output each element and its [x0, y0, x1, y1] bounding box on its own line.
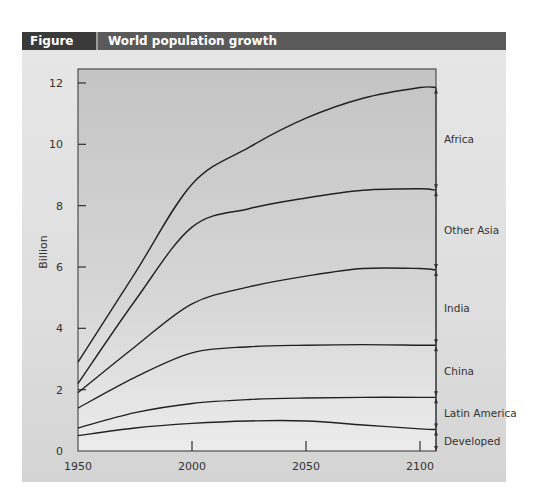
chart: 0246810121950200020502100 DevelopedLatin… [0, 0, 539, 500]
series-brackets: DevelopedLatin AmericaChinaIndiaOther As… [434, 88, 517, 451]
series-label: Developed [444, 435, 500, 447]
y-tick-label: 0 [56, 445, 63, 458]
plot-area [78, 69, 436, 451]
y-tick-label: 6 [56, 261, 63, 274]
series-label: Africa [444, 133, 474, 145]
series-label: Other Asia [444, 224, 499, 236]
y-tick-label: 12 [49, 77, 63, 90]
x-tick-label: 2050 [292, 460, 320, 473]
x-tick-label: 2100 [406, 460, 434, 473]
y-tick-label: 10 [49, 138, 63, 151]
series-label: India [444, 302, 470, 314]
series-label: China [444, 365, 474, 377]
y-tick-label: 8 [56, 200, 63, 213]
y-tick-label: 4 [56, 322, 63, 335]
x-tick-label: 1950 [64, 460, 92, 473]
series-label: Latin America [444, 407, 517, 419]
y-axis-label: Billion [37, 235, 50, 269]
y-tick-label: 2 [56, 384, 63, 397]
x-tick-label: 2000 [178, 460, 206, 473]
